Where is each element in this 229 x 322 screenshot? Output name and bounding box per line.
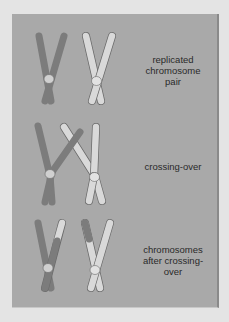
replicated-chromosome-pair-icon [12,14,130,114]
stage-label: crossing-over [130,161,216,172]
stage-after-crossing-over: chromosomes after crossing- over [12,210,217,307]
dark-chromosome [38,126,80,202]
diagram-panel: replicated chromosome pair [12,14,219,308]
light-chromosome [64,127,102,201]
light-chromosome [86,36,112,101]
stage-label: chromosomes after crossing- over [130,244,216,277]
chromosomes-after-crossing-over-icon [12,210,130,307]
stage-label: replicated chromosome pair [130,54,216,87]
dark-chromosome [39,36,64,101]
stage-crossing-over: crossing-over [12,114,217,214]
recombinant-light-chromosome [85,223,110,288]
stage-replicated-pair: replicated chromosome pair [12,14,217,114]
crossing-over-icon [12,114,130,214]
recombinant-dark-chromosome [38,223,62,288]
